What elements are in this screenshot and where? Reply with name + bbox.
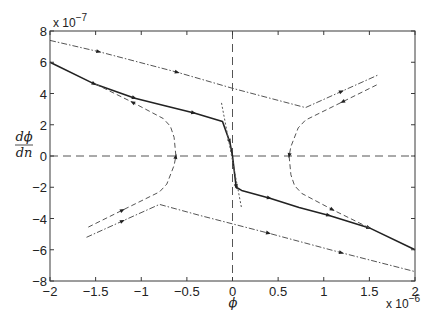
upper-dashdot-line	[50, 40, 379, 107]
x-tick-label: −1.5	[83, 284, 109, 299]
arrow-marker-icon	[339, 250, 345, 255]
arrow-marker-icon	[338, 89, 344, 95]
lower-dashdot-line	[87, 204, 416, 271]
x-axis-label: ϕ	[229, 295, 238, 310]
y-tick-label: 8	[40, 24, 47, 39]
y-tick-label: 4	[40, 87, 47, 102]
phase-plot: −2−1.5−1−0.500.511.52−8−6−4−202468 x 10−…	[0, 0, 438, 325]
y-tick-label: −4	[32, 212, 47, 227]
y-label-numerator: dϕ	[15, 129, 32, 144]
series-layer	[50, 31, 415, 281]
x-multiplier-label: x 10−6	[386, 293, 421, 311]
y-tick-label: 6	[40, 55, 47, 70]
arrow-marker-icon	[129, 99, 135, 105]
y-multiplier-label: x 10−7	[53, 12, 88, 30]
y-tick-label: −2	[32, 180, 47, 195]
y-tick-label: 2	[40, 118, 47, 133]
y-tick-label: 0	[40, 149, 47, 164]
arrow-marker-icon	[174, 70, 180, 75]
arrow-marker-icon	[119, 207, 125, 213]
y-axis-label: dϕ dn	[15, 129, 33, 160]
arrow-marker-icon	[329, 207, 335, 213]
arrow-marker-icon	[119, 218, 125, 224]
arrow-marker-icon	[96, 49, 102, 54]
x-tick-label: 1	[320, 284, 327, 299]
arrow-marker-icon	[266, 231, 272, 236]
y-tick-label: −6	[32, 243, 47, 258]
arrow-marker-icon	[339, 99, 345, 105]
x-tick-label: −1	[134, 284, 149, 299]
y-tick-label: −8	[32, 274, 47, 289]
x-tick-label: 1.5	[360, 284, 378, 299]
x-tick-label: −0.5	[174, 284, 200, 299]
x-tick-label: 0.5	[269, 284, 287, 299]
y-label-denominator: dn	[16, 145, 33, 160]
